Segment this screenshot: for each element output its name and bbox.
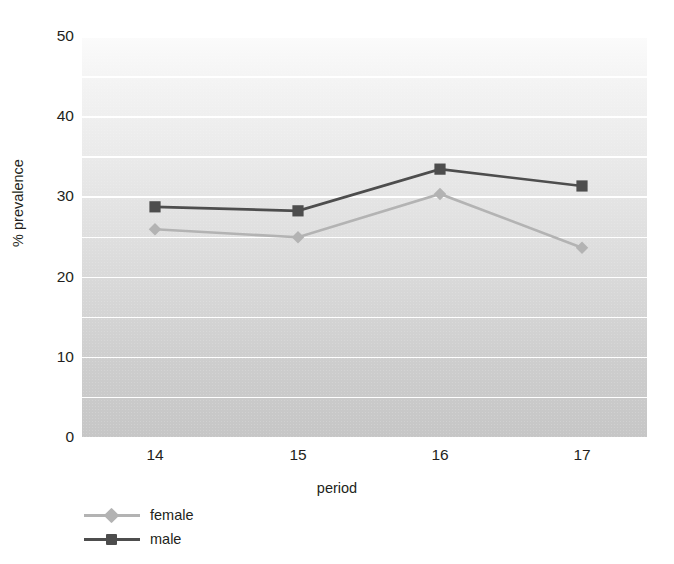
y-tick-label: 10 — [30, 349, 74, 365]
legend-item-male: male — [84, 527, 194, 551]
data-series-layer — [82, 36, 647, 437]
y-tick-label: 50 — [30, 28, 74, 44]
x-tick-label: 17 — [552, 446, 612, 464]
line-chart: % prevalence 50 40 30 20 10 0 14 15 16 1… — [0, 0, 674, 564]
diamond-marker-icon — [104, 508, 120, 524]
x-tick-label: 16 — [410, 446, 470, 464]
legend-key-female — [84, 507, 140, 523]
y-tick-label: 30 — [30, 188, 74, 204]
data-point-female-16 — [434, 188, 447, 201]
series-male — [149, 164, 587, 217]
data-point-male-15 — [292, 205, 303, 216]
series-female — [149, 188, 589, 254]
y-tick-label: 0 — [30, 429, 74, 445]
legend-key-male — [84, 531, 140, 547]
legend-label-male: male — [150, 531, 181, 547]
data-point-male-16 — [434, 164, 445, 175]
square-marker-icon — [106, 534, 117, 545]
x-tick-label: 14 — [125, 446, 185, 464]
data-point-female-17 — [576, 241, 589, 254]
x-tick-label: 15 — [268, 446, 328, 464]
chart-legend: female male — [84, 503, 194, 551]
x-axis-title: period — [0, 480, 674, 496]
y-tick-label: 20 — [30, 269, 74, 285]
data-point-male-14 — [149, 201, 160, 212]
legend-item-female: female — [84, 503, 194, 527]
data-point-female-15 — [292, 231, 305, 244]
series-line-female — [155, 194, 582, 248]
series-line-male — [155, 169, 582, 211]
data-point-male-17 — [576, 180, 587, 191]
data-point-female-14 — [149, 223, 162, 236]
legend-label-female: female — [150, 507, 194, 523]
y-tick-label: 40 — [30, 108, 74, 124]
